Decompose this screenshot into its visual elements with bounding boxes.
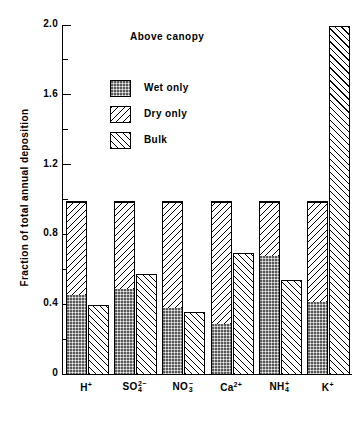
x-axis-tick-label: K+ <box>304 381 352 393</box>
bar-bulk <box>233 253 254 375</box>
x-axis-tick-label: NO−3 <box>159 381 207 393</box>
y-axis-tick-major <box>62 164 71 165</box>
bar-bulk <box>329 26 350 375</box>
y-axis-tick-minor <box>62 59 68 60</box>
y-axis-tick-major <box>62 25 71 26</box>
y-axis-tick-label: 0.4 <box>18 297 58 308</box>
bar-segment-wet-only <box>260 256 279 374</box>
y-axis-tick-label: 2.0 <box>18 18 58 29</box>
x-axis-tick-label: NH+4 <box>255 381 303 393</box>
bar-stacked-deposition <box>162 201 183 376</box>
bar-bulk <box>136 274 157 375</box>
bar-segment-wet-only <box>163 308 182 374</box>
bar-segment-wet-only <box>308 302 327 374</box>
bar-bulk <box>88 305 109 375</box>
bar-segment-dry-only <box>67 202 86 296</box>
bar-segment-dry-only <box>260 202 279 257</box>
plot-area: 00.40.81.21.62.0 H+SO2−4NO−3Ca2+NH+4K+ <box>62 25 352 375</box>
bar-stacked-deposition <box>307 201 328 376</box>
y-axis-tick-label: 1.2 <box>18 158 58 169</box>
y-axis-tick-label: 1.6 <box>18 88 58 99</box>
bar-stacked-deposition <box>259 201 280 376</box>
bar-bulk <box>184 312 205 375</box>
bar-stacked-deposition <box>114 201 135 376</box>
x-axis-tick-label: Ca2+ <box>207 381 255 393</box>
x-axis-tick-label: H+ <box>62 381 110 393</box>
y-axis-tick-label: 0.8 <box>18 227 58 238</box>
chart-figure: Fraction of total annual deposition Abov… <box>0 0 363 427</box>
bar-segment-wet-only <box>115 289 134 375</box>
y-axis-tick-minor <box>62 129 68 130</box>
bar-segment-dry-only <box>163 202 182 308</box>
x-axis-tick-label: SO2−4 <box>110 381 158 393</box>
bar-segment-dry-only <box>212 202 231 325</box>
bar-segment-wet-only <box>212 324 231 374</box>
bar-segment-wet-only <box>67 295 86 374</box>
bar-stacked-deposition <box>66 201 87 376</box>
y-axis-line <box>62 25 63 375</box>
y-axis-tick-major <box>62 94 71 95</box>
bar-bulk <box>281 280 302 375</box>
bar-segment-dry-only <box>115 202 134 289</box>
bar-segment-dry-only <box>308 202 327 302</box>
y-axis-label: Fraction of total annual deposition <box>19 88 30 308</box>
y-axis-tick-label: 0 <box>18 367 58 378</box>
bar-stacked-deposition <box>211 201 232 376</box>
